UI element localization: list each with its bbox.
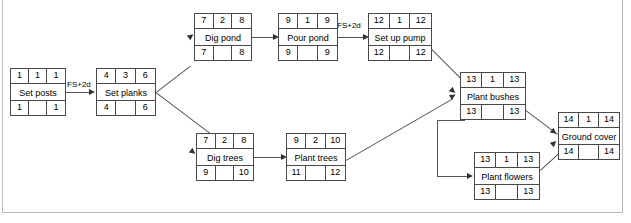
late-finish: 14	[599, 145, 619, 159]
duration: 1	[298, 14, 317, 28]
activity-node-set-posts[interactable]: 1 1 1 Set posts 1 1	[10, 68, 66, 116]
edge-plant-bushes-to-flowers-top	[437, 120, 465, 121]
edge-dig-trees-to-plant-trees	[254, 157, 284, 158]
activity-node-set-planks[interactable]: 4 3 6 Set planks 4 6	[96, 68, 156, 116]
activity-node-dig-trees[interactable]: 7 2 8 Dig trees 9 10	[196, 133, 254, 181]
early-finish: 1	[47, 69, 65, 83]
page-border-left	[2, 0, 3, 212]
activity-node-set-up-pump[interactable]: 12 1 12 Set up pump 12 12	[368, 13, 432, 61]
node-row-early: 1 1 1	[11, 69, 65, 84]
duration: 2	[216, 134, 235, 148]
late-start: 13	[475, 185, 496, 199]
early-finish: 14	[599, 113, 619, 127]
activity-name: Ground cover	[559, 128, 619, 144]
late-start: 12	[369, 46, 390, 60]
node-row-late: 11 12	[287, 165, 345, 180]
early-finish: 10	[326, 134, 345, 148]
early-start: 7	[197, 134, 216, 148]
edge-plant-bushes-to-flowers-down	[437, 120, 438, 176]
page-border-bottom	[2, 212, 623, 213]
late-start: 7	[195, 46, 214, 60]
edge-label-fs2d-set-planks: FS+2d	[66, 80, 92, 90]
late-start: 1	[11, 101, 29, 115]
late-finish: 12	[326, 166, 345, 180]
slack	[29, 101, 47, 115]
node-row-late: 13 13	[475, 184, 539, 199]
early-start: 9	[287, 134, 306, 148]
node-row-early: 9 1 9	[279, 14, 337, 29]
activity-name: Plant bushes	[461, 88, 525, 104]
node-row-late: 4 6	[97, 100, 155, 115]
late-finish: 9	[318, 46, 337, 60]
early-start: 12	[369, 14, 390, 28]
edge-dig-pond-to-pour-pond	[252, 37, 275, 38]
early-start: 9	[279, 14, 298, 28]
early-start: 13	[475, 153, 496, 167]
late-finish: 8	[232, 46, 251, 60]
duration: 1	[482, 73, 503, 87]
slack	[306, 166, 325, 180]
early-finish: 6	[136, 69, 155, 83]
activity-name: Set planks	[97, 84, 155, 100]
late-start: 9	[279, 46, 298, 60]
early-finish: 9	[318, 14, 337, 28]
node-row-early: 14 1 14	[559, 113, 619, 128]
late-start: 11	[287, 166, 306, 180]
late-finish: 13	[504, 105, 525, 119]
duration: 1	[496, 153, 517, 167]
duration: 2	[214, 14, 233, 28]
slack	[496, 185, 517, 199]
node-row-late: 9 10	[197, 165, 253, 180]
node-row-early: 7 2 8	[197, 134, 253, 149]
slack	[482, 105, 503, 119]
node-row-late: 7 8	[195, 45, 251, 60]
edge-pour-pond-to-set-up-pump	[338, 37, 365, 38]
slack	[214, 46, 233, 60]
early-start: 14	[559, 113, 579, 127]
activity-name: Pour pond	[279, 29, 337, 45]
early-start: 1	[11, 69, 29, 83]
node-row-late: 14 14	[559, 144, 619, 159]
late-start: 14	[559, 145, 579, 159]
edge-label-fs2d-set-up-pump: FS+2d	[336, 21, 362, 31]
arrowhead-set-planks	[89, 89, 95, 95]
network-diagram-canvas: FS+2d FS+2d 1 1 1 Set posts 1 1 4 3 6 Se…	[0, 0, 631, 223]
node-row-early: 7 2 8	[195, 14, 251, 29]
duration: 2	[306, 134, 325, 148]
edge-plant-bushes-to-flowers-right	[437, 176, 469, 177]
activity-node-dig-pond[interactable]: 7 2 8 Dig pond 7 8	[194, 13, 252, 61]
activity-name: Plant trees	[287, 149, 345, 165]
node-row-late: 1 1	[11, 100, 65, 115]
activity-name: Dig trees	[197, 149, 253, 165]
early-finish: 8	[232, 14, 251, 28]
page-border-right	[622, 0, 623, 212]
activity-node-plant-bushes[interactable]: 13 1 13 Plant bushes 13 13	[460, 72, 526, 120]
late-finish: 1	[47, 101, 65, 115]
node-row-early: 9 2 10	[287, 134, 345, 149]
duration: 1	[390, 14, 411, 28]
node-row-early: 4 3 6	[97, 69, 155, 84]
activity-name: Set up pump	[369, 29, 431, 45]
duration: 3	[116, 69, 135, 83]
early-start: 4	[97, 69, 116, 83]
edge-set-planks-to-dig-pond	[156, 66, 191, 93]
early-finish: 12	[410, 14, 431, 28]
early-start: 7	[195, 14, 214, 28]
node-row-early: 13 1 13	[475, 153, 539, 168]
duration: 1	[29, 69, 47, 83]
activity-node-plant-trees[interactable]: 9 2 10 Plant trees 11 12	[286, 133, 346, 181]
slack	[216, 166, 235, 180]
late-finish: 12	[410, 46, 431, 60]
late-finish: 10	[234, 166, 253, 180]
duration: 1	[579, 113, 599, 127]
node-row-late: 12 12	[369, 45, 431, 60]
late-finish: 6	[136, 101, 155, 115]
activity-name: Dig pond	[195, 29, 251, 45]
activity-node-ground-cover[interactable]: 14 1 14 Ground cover 14 14	[558, 112, 620, 160]
activity-node-plant-flowers[interactable]: 13 1 13 Plant flowers 13 13	[474, 152, 540, 200]
activity-node-pour-pond[interactable]: 9 1 9 Pour pond 9 9	[278, 13, 338, 61]
late-start: 9	[197, 166, 216, 180]
early-finish: 13	[518, 153, 539, 167]
slack	[298, 46, 317, 60]
arrowhead-ground-cover-from-flowers	[550, 139, 558, 147]
